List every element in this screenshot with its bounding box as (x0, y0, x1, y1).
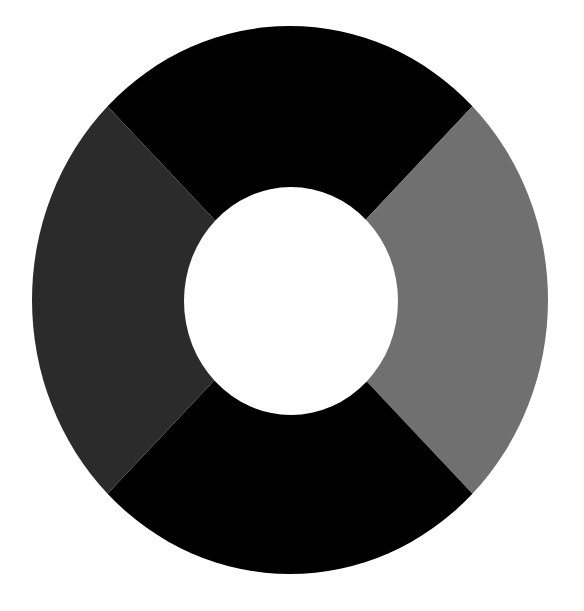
donut-chart (0, 0, 584, 611)
chart-canvas (0, 0, 584, 611)
donut-hole (184, 187, 398, 415)
